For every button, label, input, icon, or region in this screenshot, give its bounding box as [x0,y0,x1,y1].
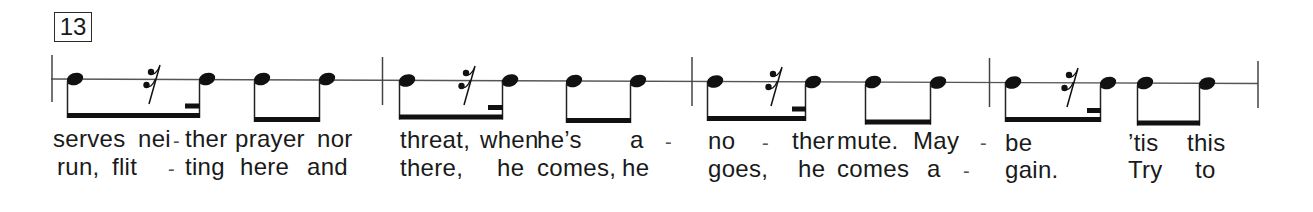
lyric-syllable: to [1195,158,1216,182]
lyric-hyphen: - [665,130,672,154]
beams [67,104,320,123]
primary-beam [1137,121,1200,126]
primary-beam [566,118,631,123]
lyric-syllable: ther [792,129,835,153]
primary-beam [707,116,806,121]
lyric-syllable: run, [57,155,100,179]
beams [1005,108,1200,126]
sixteenth-beam-stub [792,107,806,112]
beams [707,107,931,125]
measure-4 [1003,68,1217,126]
measure-2 [397,66,648,123]
sixteenth-rest-icon [765,67,782,106]
sixteenth-rest-icon [143,65,160,104]
lyric-syllable: ther [185,127,228,151]
beams [399,105,631,123]
lyric-hyphen: - [168,157,175,181]
lyric-syllable: here [240,155,289,179]
lyric-syllable: he [497,156,524,180]
lyric-hyphen: - [980,131,987,155]
lyric-syllable: this [1187,131,1226,155]
lyric-syllable: no [708,129,735,153]
staff-line [51,79,1258,84]
primary-beam [67,113,200,118]
lyric-syllable: he [798,157,825,181]
lyric-syllable: Try [1128,158,1163,182]
measure-3 [705,67,948,125]
sixteenth-rest-icon [458,66,475,105]
lyric-hyphen: - [963,159,970,183]
lyric-syllable: mute. [837,129,899,153]
lyric-syllable: a [630,128,644,152]
music-score-excerpt: 13 [0,0,1313,212]
lyric-syllable: when [480,128,539,152]
lyric-syllable: threat, [400,128,470,152]
lyric-syllable: nei [138,127,171,151]
single-line-staff [0,0,1313,212]
lyric-syllable: a [927,157,941,181]
lyric-syllable: prayer [235,127,305,151]
lyric-syllable: gain. [1005,158,1059,182]
lyric-syllable: goes, [708,157,768,181]
lyric-syllable: serves [53,127,126,151]
lyric-syllable: be [1005,131,1032,155]
primary-beam [254,117,320,122]
lyric-syllable: and [307,155,348,179]
lyric-syllable: there, [400,156,463,180]
lyric-syllable: comes [837,157,909,181]
lyric-syllable: flit [112,155,137,179]
primary-beam [865,120,931,125]
primary-beam [399,115,503,120]
lyric-syllable: ’tis [1128,131,1159,155]
lyric-syllable: ting [185,155,225,179]
sixteenth-beam-stub [488,105,503,110]
sixteenth-beam-stub [1087,108,1101,113]
lyric-hyphen: - [762,131,769,155]
lyric-syllable: May [913,129,959,153]
primary-beam [1005,117,1101,122]
measure-1 [65,65,337,122]
lyric-hyphen: - [173,129,180,153]
lyric-syllable: nor [317,127,353,151]
sixteenth-beam-stub [185,104,200,109]
lyric-syllable: he’s [537,128,582,152]
lyric-syllable: he [622,156,649,180]
lyric-syllable: comes, [537,156,616,180]
sixteenth-rest-icon [1061,68,1078,107]
